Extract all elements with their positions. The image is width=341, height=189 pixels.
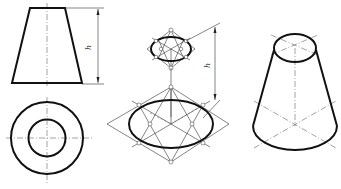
bottom-rhombus xyxy=(107,87,229,162)
arrow-up-icon xyxy=(97,9,100,15)
drawing-canvas: h h xyxy=(0,0,341,189)
top-view xyxy=(6,97,94,184)
arrow-down-icon xyxy=(97,77,100,83)
isometric-result xyxy=(253,34,337,150)
cone-right-edge xyxy=(316,50,337,126)
arrow-up-icon xyxy=(214,27,217,33)
dim-label-h-iso: h xyxy=(203,63,212,68)
arrow-down-icon xyxy=(214,94,217,100)
cone-left-edge xyxy=(253,50,274,126)
bottom-face-arc xyxy=(253,126,337,150)
isometric-construction: h xyxy=(107,23,229,164)
dim-label-h: h xyxy=(84,45,93,50)
front-view: h xyxy=(12,3,104,88)
